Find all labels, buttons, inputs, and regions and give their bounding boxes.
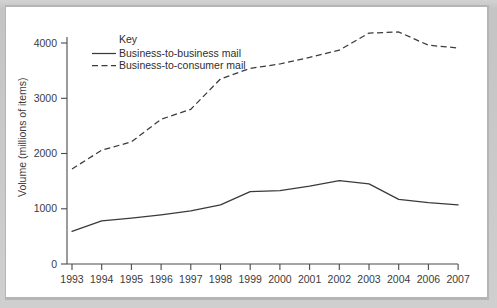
y-tick-label-1000: 1000 bbox=[34, 202, 58, 214]
x-tick-label-1995: 1995 bbox=[120, 273, 144, 285]
screenshot-root: 0 1000 2000 3000 4000 bbox=[0, 0, 497, 308]
x-tick-label-1996: 1996 bbox=[149, 273, 173, 285]
y-tick-label-0: 0 bbox=[51, 258, 57, 270]
y-tick-label-3000: 3000 bbox=[34, 92, 58, 104]
legend-label-business-to-consumer: Business-to-consumer mail bbox=[119, 59, 246, 71]
y-tick-label-4000: 4000 bbox=[34, 37, 58, 49]
series-line-business-to-business bbox=[72, 181, 458, 232]
x-tick-label-1994: 1994 bbox=[90, 273, 114, 285]
y-axis-title: Volume (millions of items) bbox=[16, 77, 28, 197]
x-tick-label-1998: 1998 bbox=[209, 273, 233, 285]
x-tick-label-2001: 2001 bbox=[298, 273, 322, 285]
legend-label-business-to-business: Business-to-business mail bbox=[119, 47, 241, 59]
x-tick-label-1999: 1999 bbox=[239, 273, 263, 285]
chart-card: 0 1000 2000 3000 4000 bbox=[6, 7, 487, 297]
x-tick-label-2004: 2004 bbox=[387, 273, 411, 285]
x-axis-labels: 1993 1994 1995 1996 1997 1998 1999 2000 … bbox=[60, 273, 470, 285]
chart-legend: Key Business-to-business mail Business-t… bbox=[92, 33, 246, 71]
x-tick-label-2002: 2002 bbox=[328, 273, 352, 285]
x-tick-label-1993: 1993 bbox=[60, 273, 84, 285]
y-axis-ticks: 0 1000 2000 3000 4000 bbox=[34, 37, 67, 270]
legend-title: Key bbox=[119, 33, 138, 45]
x-axis-ticks bbox=[72, 264, 458, 270]
x-tick-label-2003: 2003 bbox=[357, 273, 381, 285]
line-chart: 0 1000 2000 3000 4000 bbox=[6, 7, 487, 297]
x-tick-label-2006: 2006 bbox=[417, 273, 441, 285]
x-tick-label-2007: 2007 bbox=[446, 273, 470, 285]
y-tick-label-2000: 2000 bbox=[34, 147, 58, 159]
x-tick-label-2000: 2000 bbox=[268, 273, 292, 285]
x-tick-label-1997: 1997 bbox=[179, 273, 203, 285]
